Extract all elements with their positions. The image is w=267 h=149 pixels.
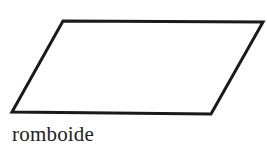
shape-label: romboide bbox=[12, 122, 94, 146]
rhomboid-shape bbox=[12, 21, 263, 114]
